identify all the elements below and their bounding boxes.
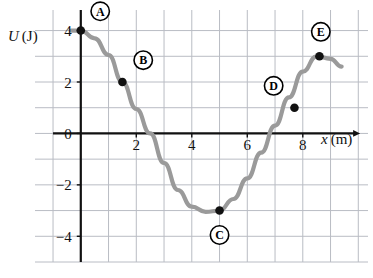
y-tick-label: 2 [64, 75, 72, 91]
y-tick-label: 4 [64, 23, 72, 39]
point-label-text-E: E [317, 25, 325, 39]
x-axis-label: x(m) [320, 131, 352, 148]
point-label-text-D: D [269, 79, 278, 93]
point-marker-D [290, 103, 299, 112]
point-label-text-B: B [139, 53, 147, 67]
y-tick-label: −2 [56, 177, 72, 193]
point-label-text-A: A [96, 5, 105, 19]
graph-canvas: 2468420−2−4 ABCDE U(J) x(m) [0, 0, 373, 278]
x-tick-label: 2 [133, 137, 141, 153]
point-label-text-C: C [215, 228, 224, 242]
x-tick-label: 6 [244, 137, 252, 153]
point-marker-A [76, 26, 85, 35]
y-axis-label: U(J) [8, 28, 38, 45]
x-tick-label: 8 [299, 137, 307, 153]
point-marker-C [215, 206, 224, 215]
point-marker-B [118, 78, 127, 87]
x-tick-label: 4 [188, 137, 196, 153]
y-tick-label: 0 [64, 126, 72, 142]
y-tick-label: −4 [56, 229, 72, 245]
point-marker-E [315, 52, 324, 61]
potential-energy-graph-figure: 2468420−2−4 ABCDE U(J) x(m) [0, 0, 373, 278]
